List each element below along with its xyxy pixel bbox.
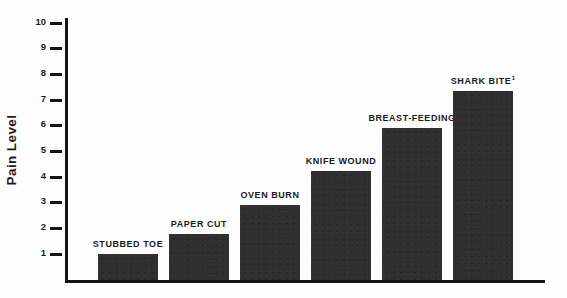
plot-area: 10987654321 STUBBED TOEPAPER CUTOVEN BUR… — [65, 18, 545, 283]
bar-label: BREAST-FEEDING — [368, 113, 455, 124]
bar-group: STUBBED TOE — [98, 254, 158, 280]
y-tick-label: 5 — [24, 143, 46, 157]
y-tick-mark — [50, 22, 62, 25]
y-tick: 5 — [42, 150, 62, 153]
bar-label: PAPER CUT — [171, 219, 227, 230]
y-tick: 2 — [42, 227, 62, 230]
y-tick: 10 — [42, 22, 62, 25]
y-tick-label: 8 — [24, 66, 46, 80]
y-tick-mark — [50, 176, 62, 179]
footnote-marker: 1 — [512, 75, 515, 81]
y-tick-label: 9 — [24, 40, 46, 54]
x-axis-line — [65, 280, 545, 283]
bar[interactable] — [98, 254, 158, 280]
y-tick-mark — [50, 99, 62, 102]
y-tick-label: 7 — [24, 92, 46, 106]
bar[interactable] — [453, 91, 513, 280]
bar[interactable] — [240, 205, 300, 280]
y-tick-mark — [50, 227, 62, 230]
y-tick-mark — [50, 47, 62, 50]
bar-group: BREAST-FEEDING — [382, 128, 442, 280]
y-tick: 7 — [42, 99, 62, 102]
y-tick-label: 4 — [24, 169, 46, 183]
y-tick: 8 — [42, 73, 62, 76]
y-tick-label: 2 — [24, 220, 46, 234]
y-tick: 6 — [42, 124, 62, 127]
y-tick-mark — [50, 124, 62, 127]
bar[interactable] — [382, 128, 442, 280]
y-tick-label: 10 — [24, 15, 46, 29]
y-tick: 3 — [42, 201, 62, 204]
bar-group: SHARK BITE1 — [453, 91, 513, 280]
bar[interactable] — [311, 171, 371, 280]
pain-level-bar-chart: Pain Level 10987654321 STUBBED TOEPAPER … — [0, 0, 567, 298]
bar-label: KNIFE WOUND — [306, 156, 377, 167]
bar-label: OVEN BURN — [241, 190, 300, 201]
y-tick: 4 — [42, 176, 62, 179]
y-axis-title: Pain Level — [0, 95, 22, 205]
y-axis-line — [65, 18, 68, 283]
y-tick: 1 — [42, 253, 62, 256]
y-tick-mark — [50, 201, 62, 204]
bar-group: PAPER CUT — [169, 234, 229, 280]
bar-label: SHARK BITE1 — [451, 73, 515, 87]
bar-group: KNIFE WOUND — [311, 171, 371, 280]
y-tick-mark — [50, 73, 62, 76]
bar-label: STUBBED TOE — [93, 239, 163, 250]
y-tick-mark — [50, 150, 62, 153]
y-tick: 9 — [42, 47, 62, 50]
y-tick-label: 1 — [24, 246, 46, 260]
y-tick-mark — [50, 253, 62, 256]
y-tick-label: 3 — [24, 194, 46, 208]
y-tick-label: 6 — [24, 117, 46, 131]
bar[interactable] — [169, 234, 229, 280]
bar-group: OVEN BURN — [240, 205, 300, 280]
